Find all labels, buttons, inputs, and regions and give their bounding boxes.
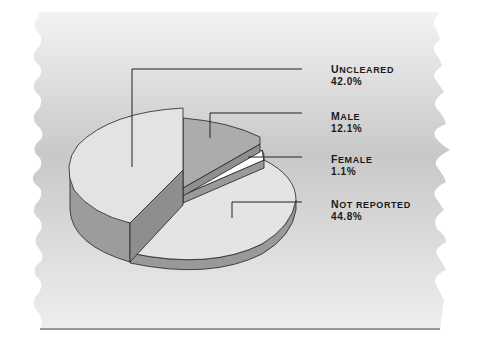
chart-stage: Uncleared 42.0% Male 12.1% Female 1.1% N… (0, 0, 481, 341)
label-uncleared: Uncleared 42.0% (331, 64, 394, 87)
label-not-reported: Not reported 44.8% (331, 199, 411, 222)
label-male-pct: 12.1% (331, 123, 362, 134)
label-uncleared-name: Uncleared (331, 64, 394, 76)
label-female-pct: 1.1% (331, 166, 373, 177)
label-not-reported-pct: 44.8% (331, 211, 411, 222)
label-male-name: Male (331, 111, 362, 123)
label-female-name: Female (331, 154, 373, 166)
label-uncleared-pct: 42.0% (331, 76, 394, 87)
pie-chart-svg (0, 0, 481, 341)
label-female: Female 1.1% (331, 154, 373, 177)
label-not-reported-name: Not reported (331, 199, 411, 211)
label-male: Male 12.1% (331, 111, 362, 134)
